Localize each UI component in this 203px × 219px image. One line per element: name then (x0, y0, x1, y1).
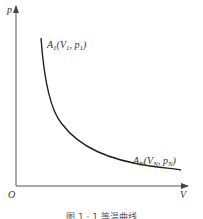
isotherm-curve (41, 38, 181, 170)
point-an-label: AN(VN, pN) (132, 155, 177, 168)
pv-diagram: p V O A1(V1, p1) AN(VN, pN) (0, 0, 203, 219)
y-axis-label: p (6, 4, 12, 15)
point-a1-label: A1(V1, p1) (46, 39, 87, 52)
figure-caption: 图 1 · 1 等温曲线 (0, 210, 203, 219)
x-axis-label: V (180, 189, 188, 200)
origin-label: O (8, 189, 15, 200)
